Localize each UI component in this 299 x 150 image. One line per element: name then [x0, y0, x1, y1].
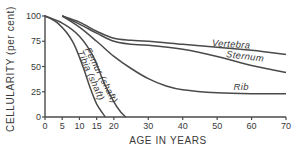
x-tick-label: 40: [178, 121, 188, 131]
x-axis-title: AGE IN YEARS: [129, 135, 207, 146]
label-rib: Rib: [234, 81, 249, 92]
x-axis: 051015203040506070: [42, 117, 291, 131]
x-tick-label: 15: [92, 121, 102, 131]
y-tick-label: 50: [31, 62, 41, 72]
x-tick-label: 70: [281, 121, 291, 131]
y-tick-label: 0: [36, 112, 41, 122]
y-axis: 0255075100: [26, 11, 45, 122]
x-tick-label: 10: [74, 121, 84, 131]
cellularity-chart: 0255075100 051015203040506070 VertebraSt…: [0, 0, 299, 150]
x-tick-label: 50: [212, 121, 222, 131]
y-tick-label: 75: [31, 36, 41, 46]
y-tick-label: 25: [31, 87, 41, 97]
curves: [45, 16, 286, 117]
x-tick-label: 0: [42, 121, 47, 131]
x-tick-label: 30: [143, 121, 153, 131]
x-tick-label: 20: [109, 121, 119, 131]
y-tick-label: 100: [26, 11, 41, 21]
x-tick-label: 60: [247, 121, 257, 131]
x-tick-label: 5: [60, 121, 65, 131]
y-axis-title: CELLULARITY (per cent): [5, 6, 16, 132]
